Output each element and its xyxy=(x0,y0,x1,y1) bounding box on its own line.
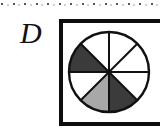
rule-dot xyxy=(105,3,107,5)
rule-dot xyxy=(1,3,3,5)
rule-dot xyxy=(128,3,130,5)
rule-dot xyxy=(70,3,72,5)
rule-dot-faint xyxy=(41,4,43,6)
rule-dot-faint xyxy=(30,4,32,6)
rule-dot xyxy=(82,3,84,5)
rule-dot xyxy=(93,3,95,5)
rule-dot-faint xyxy=(18,4,20,6)
rule-dot xyxy=(24,3,26,5)
rule-dot-faint xyxy=(53,4,55,6)
dotted-rule xyxy=(0,3,160,7)
panel-letter-label: D xyxy=(20,18,50,48)
pie-chart-frame xyxy=(59,19,160,126)
rule-dot-faint xyxy=(145,4,147,6)
rule-dot xyxy=(151,3,153,5)
rule-dot-faint xyxy=(7,4,9,6)
rule-dot-faint xyxy=(99,4,101,6)
rule-dot-faint xyxy=(64,4,66,6)
rule-dot-faint xyxy=(87,4,89,6)
rule-dot xyxy=(36,3,38,5)
rule-dot xyxy=(47,3,49,5)
rule-dot-faint xyxy=(156,4,158,6)
rule-dot-faint xyxy=(133,4,135,6)
rule-dot-faint xyxy=(122,4,124,6)
rule-dot xyxy=(59,3,61,5)
rule-dot xyxy=(13,3,15,5)
rule-dot xyxy=(139,3,141,5)
figure-panel: D xyxy=(0,0,160,138)
rule-dot xyxy=(116,3,118,5)
rule-dot-faint xyxy=(76,4,78,6)
rule-dot-faint xyxy=(110,4,112,6)
